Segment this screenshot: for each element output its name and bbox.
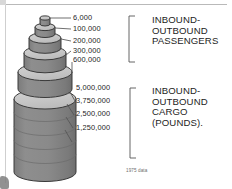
cargo-cylinder	[14, 89, 76, 182]
group-title-line: PASSENGERS	[152, 36, 218, 47]
cargo-value-label: 3,750,000	[76, 97, 110, 105]
passenger-value-label: 6,000	[73, 14, 92, 22]
group-title-passengers: INBOUND- OUTBOUND PASSENGERS	[152, 15, 218, 47]
group-title-line: (POUNDS).	[152, 118, 208, 129]
bracket-cargo	[130, 88, 136, 158]
infographic-figure: 6,000 100,000 200,000 300,000 600,000 5,…	[0, 0, 232, 189]
group-title-line: INBOUND-	[152, 15, 218, 26]
passenger-value-label: 300,000	[73, 47, 101, 55]
source-note: 1975 data	[126, 168, 147, 173]
passenger-value-label: 100,000	[73, 25, 101, 33]
bracket-passengers	[129, 16, 135, 62]
group-title-cargo: INBOUND- OUTBOUND CARGO (POUNDS).	[152, 86, 208, 128]
cargo-value-label: 1,250,000	[76, 124, 110, 132]
cargo-value-label: 2,500,000	[76, 110, 110, 118]
cargo-value-label: 5,000,000	[76, 84, 110, 92]
passenger-value-label: 600,000	[73, 56, 101, 64]
group-title-line: INBOUND-	[152, 86, 208, 97]
passenger-value-label: 200,000	[73, 37, 101, 45]
passenger-cylinder-6000	[40, 16, 50, 26]
